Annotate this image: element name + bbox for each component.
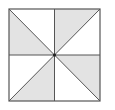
pinwheel-diagram	[0, 0, 115, 110]
center-point	[53, 53, 56, 56]
